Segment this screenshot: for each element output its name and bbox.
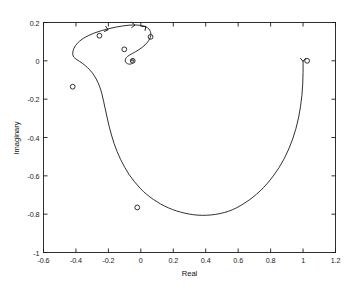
data-markers bbox=[70, 33, 309, 210]
x-tick-label: -0.4 bbox=[70, 256, 82, 265]
y-axis-title: Imaginary bbox=[12, 121, 21, 154]
marker-upper-left bbox=[97, 33, 102, 38]
plot-canvas bbox=[0, 0, 359, 288]
x-axis-title: Real bbox=[182, 269, 198, 278]
y-tick-label: 0 bbox=[18, 56, 40, 65]
x-tick-label: 0.4 bbox=[201, 256, 211, 265]
x-tick-label: 0.6 bbox=[233, 256, 243, 265]
x-tick-label: -0.2 bbox=[102, 256, 114, 265]
data-curve bbox=[73, 25, 303, 215]
x-tick-label: 0 bbox=[139, 256, 143, 265]
x-tick-label: 0.8 bbox=[266, 256, 276, 265]
x-tick-label: 0.2 bbox=[168, 256, 178, 265]
axis-ticks bbox=[44, 23, 336, 253]
y-tick-label: -0.2 bbox=[18, 95, 40, 104]
axes-frame bbox=[44, 23, 336, 253]
marker-left bbox=[70, 84, 75, 89]
x-tick-label: 1 bbox=[301, 256, 305, 265]
y-tick-label: -1 bbox=[18, 248, 40, 257]
x-tick-label: 1.2 bbox=[331, 256, 341, 265]
marker-bottom bbox=[135, 205, 140, 210]
y-tick-label: -0.6 bbox=[18, 171, 40, 180]
nyquist-plot-figure: -0.6-0.4-0.200.20.40.60.811.2 0.20-0.2-0… bbox=[0, 0, 359, 288]
marker-isolated bbox=[122, 47, 127, 52]
y-tick-label: 0.2 bbox=[18, 18, 40, 27]
y-tick-label: -0.8 bbox=[18, 210, 40, 219]
direction-arrows bbox=[104, 22, 305, 61]
